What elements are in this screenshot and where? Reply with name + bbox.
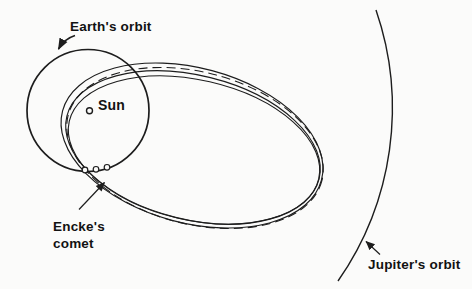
comet-orbit-ellipse-solid-inner [54, 53, 335, 247]
encke-comet-label-line1: Encke's [53, 219, 105, 234]
sun-label: Sun [98, 97, 125, 113]
orbit-diagram: Earth's orbit Sun Encke's comet Jupiter'… [0, 0, 472, 289]
encke-comet-arrow [79, 183, 105, 210]
comet-position-marker-1 [82, 167, 88, 173]
comet-position-marker-2 [93, 167, 99, 173]
encke-comet-label-line2: comet [53, 236, 94, 251]
jupiter-orbit-label: Jupiter's orbit [368, 257, 461, 272]
jupiter-orbit-arc [338, 10, 392, 281]
jupiter-orbit-arrow [366, 242, 380, 255]
comet-position-marker-3 [104, 165, 110, 171]
sun-marker [87, 108, 93, 114]
earth-orbit-arrow [59, 36, 76, 50]
orbit-diagram-canvas: Earth's orbit Sun Encke's comet Jupiter'… [0, 0, 472, 289]
comet-position-markers [82, 165, 110, 173]
earth-orbit-label: Earth's orbit [70, 19, 152, 34]
